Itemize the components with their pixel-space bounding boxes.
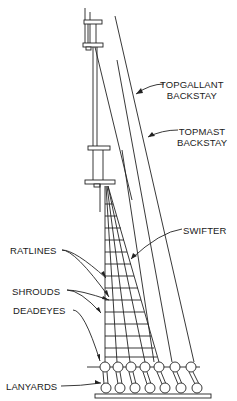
topgallant-backstay-line (115, 16, 194, 362)
label-lanyards: LANYARDS (6, 381, 57, 392)
topmast-backstay-line (117, 60, 172, 362)
label-topgallant-backstay: TOPGALLANT BACKSTAY (160, 79, 224, 101)
label-swifter: SWIFTER (183, 225, 226, 236)
label-line: BACKSTAY (177, 137, 227, 148)
deadeyes-leader (73, 310, 100, 361)
label-ratlines: RATLINES (10, 245, 57, 256)
swifter-leader (131, 229, 182, 259)
label-line: TOPGALLANT (160, 79, 224, 90)
rigging-drawing (0, 0, 237, 401)
ratlines-leader-1 (62, 250, 106, 278)
arrowheads (95, 88, 155, 384)
label-shrouds: SHROUDS (12, 286, 60, 297)
label-deadeyes: DEADEYES (13, 305, 66, 316)
lanyards-lines (103, 372, 199, 384)
rigging-diagram: TOPGALLANT BACKSTAY TOPMAST BACKSTAY SWI… (0, 0, 237, 401)
lower-deadeyes (101, 383, 202, 393)
label-topmast-backstay: TOPMAST BACKSTAY (177, 126, 227, 148)
label-line: BACKSTAY (160, 90, 224, 101)
label-line: TOPMAST (177, 126, 227, 137)
